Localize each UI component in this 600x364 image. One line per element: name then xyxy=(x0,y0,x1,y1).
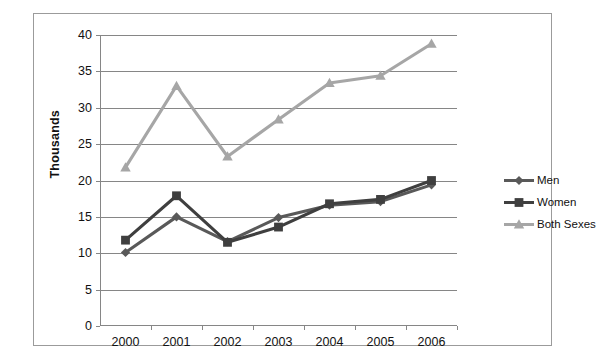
chart-legend: MenWomenBoth Sexes xyxy=(504,169,600,235)
x-axis-tick-label: 2006 xyxy=(418,335,446,349)
data-point-marker xyxy=(515,198,524,207)
data-point-marker xyxy=(171,81,181,90)
y-axis-tick-label: 25 xyxy=(78,137,92,151)
data-point-marker xyxy=(426,39,436,48)
x-axis-tick-label: 2002 xyxy=(214,335,242,349)
data-point-marker xyxy=(223,238,232,247)
y-axis-title: Thousands xyxy=(48,110,62,178)
plot-area: 0510152025303540 20002001200220032004200… xyxy=(100,35,457,326)
data-point-marker xyxy=(172,191,181,200)
legend-label: Women xyxy=(537,196,576,208)
x-axis-tick-label: 2003 xyxy=(265,335,293,349)
y-axis-tick-label: 5 xyxy=(85,283,92,297)
data-point-marker xyxy=(514,176,523,185)
y-axis-tick-label: 30 xyxy=(78,101,92,115)
y-axis-tick-label: 40 xyxy=(78,28,92,42)
x-axis-tick-label: 2001 xyxy=(163,335,191,349)
data-point-marker xyxy=(376,195,385,204)
legend-marker-glyph xyxy=(504,217,534,231)
legend-item-women[interactable]: Women xyxy=(504,191,600,213)
x-axis-tick-label: 2000 xyxy=(112,335,140,349)
legend-marker-glyph xyxy=(504,173,534,187)
series-women xyxy=(121,176,436,247)
x-axis-tick xyxy=(406,326,407,330)
y-axis-tick-label: 35 xyxy=(78,64,92,78)
data-point-marker xyxy=(274,223,283,232)
legend-marker-icon xyxy=(504,195,534,209)
x-axis-tick xyxy=(253,326,254,330)
y-axis-tick-label: 20 xyxy=(78,174,92,188)
data-point-marker xyxy=(121,236,130,245)
chart-container: Thousands 0510152025303540 2000200120022… xyxy=(33,13,552,346)
data-point-marker xyxy=(514,219,524,228)
data-point-marker xyxy=(427,176,436,185)
data-point-marker xyxy=(325,199,334,208)
legend-marker-glyph xyxy=(504,195,534,209)
series-both-sexes xyxy=(120,39,436,172)
y-axis-tick-label: 15 xyxy=(78,210,92,224)
x-axis-tick xyxy=(151,326,152,330)
legend-marker-icon xyxy=(504,173,534,187)
legend-marker-icon xyxy=(504,217,534,231)
series-line xyxy=(126,44,432,168)
x-axis-tick xyxy=(304,326,305,330)
x-axis-tick xyxy=(457,326,458,330)
legend-label: Both Sexes xyxy=(537,218,596,230)
y-axis-tick-label: 0 xyxy=(85,319,92,333)
legend-label: Men xyxy=(537,174,559,186)
x-axis-tick xyxy=(202,326,203,330)
data-series-layer xyxy=(100,35,457,326)
x-axis-tick-label: 2005 xyxy=(367,335,395,349)
x-axis-tick xyxy=(355,326,356,330)
series-men xyxy=(121,180,436,257)
y-axis-tick xyxy=(96,326,100,327)
legend-item-both-sexes[interactable]: Both Sexes xyxy=(504,213,600,235)
series-line xyxy=(126,181,432,243)
x-axis-tick-label: 2004 xyxy=(316,335,344,349)
legend-item-men[interactable]: Men xyxy=(504,169,600,191)
y-axis-tick-label: 10 xyxy=(78,246,92,260)
